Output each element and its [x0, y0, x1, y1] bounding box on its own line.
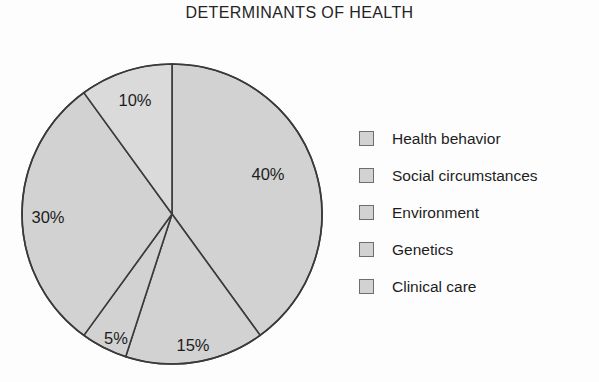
legend-swatch-icon	[359, 131, 374, 146]
legend-item-social-circumstances[interactable]: Social circumstances	[359, 157, 595, 194]
legend-item-genetics[interactable]: Genetics	[359, 231, 595, 268]
legend-item-label: Environment	[392, 204, 479, 222]
legend: Health behavior Social circumstances Env…	[359, 120, 595, 305]
pie-svg: 40% 15% 5% 30% 10%	[18, 56, 330, 372]
pie-label-social-circumstances: 15%	[176, 336, 209, 354]
pie-label-clinical-care: 10%	[118, 91, 151, 109]
legend-swatch-icon	[359, 205, 374, 220]
pie-label-health-behavior: 40%	[251, 165, 284, 183]
legend-item-environment[interactable]: Environment	[359, 194, 595, 231]
pie-slices	[22, 64, 322, 364]
legend-swatch-icon	[359, 242, 374, 257]
legend-item-label: Genetics	[392, 241, 453, 259]
pie-chart-area: 40% 15% 5% 30% 10%	[18, 56, 330, 372]
legend-item-health-behavior[interactable]: Health behavior	[359, 120, 595, 157]
pie-chart-figure: DETERMINANTS OF HEALTH 40% 15% 5% 30% 10…	[0, 0, 599, 382]
pie-label-genetics: 30%	[31, 208, 64, 226]
pie-label-environment: 5%	[104, 329, 128, 347]
legend-item-label: Clinical care	[392, 278, 476, 296]
chart-title: DETERMINANTS OF HEALTH	[0, 4, 599, 22]
legend-swatch-icon	[359, 168, 374, 183]
legend-swatch-icon	[359, 279, 374, 294]
legend-item-label: Health behavior	[392, 130, 501, 148]
legend-item-label: Social circumstances	[392, 167, 538, 185]
legend-item-clinical-care[interactable]: Clinical care	[359, 268, 595, 305]
